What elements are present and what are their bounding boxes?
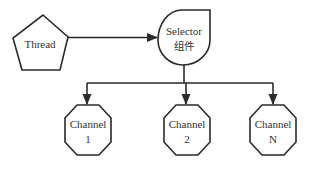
octagon-shape: [250, 105, 296, 155]
node-selector: Selector 组件: [158, 10, 210, 65]
node-channel-1: Channel 1: [65, 105, 111, 155]
channel1-label-line1: Channel: [70, 118, 107, 130]
node-thread: Thread: [13, 15, 68, 70]
channel2-label-line2: 2: [184, 133, 190, 145]
diagram-canvas: Thread Selector 组件 Channel 1 Channel 2 C…: [0, 0, 309, 171]
selector-label-line1: Selector: [166, 25, 202, 37]
node-channel-2: Channel 2: [164, 105, 210, 155]
channel1-label-line2: 1: [85, 133, 91, 145]
octagon-shape: [65, 105, 111, 155]
channelN-label-line2: N: [269, 133, 277, 145]
channelN-label-line1: Channel: [255, 118, 292, 130]
thread-label: Thread: [24, 38, 56, 50]
teardrop-shape: [158, 10, 210, 65]
octagon-shape: [164, 105, 210, 155]
node-channel-n: Channel N: [250, 105, 296, 155]
selector-label-line2: 组件: [174, 40, 194, 52]
edge-selector-to-channels: [87, 65, 273, 104]
channel2-label-line1: Channel: [169, 118, 206, 130]
